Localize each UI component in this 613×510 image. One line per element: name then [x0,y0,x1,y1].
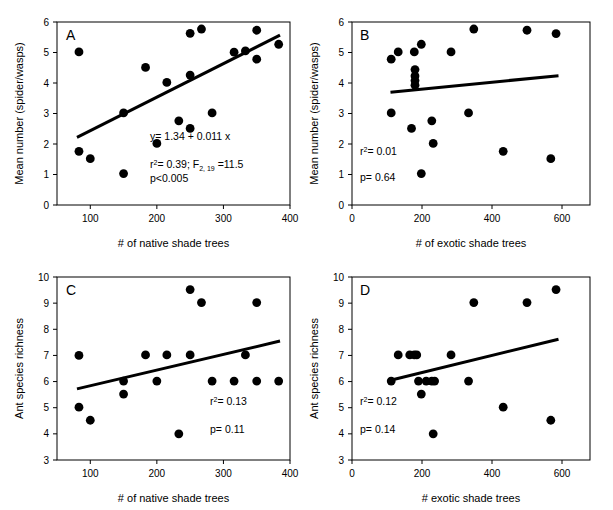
data-point [274,40,283,49]
data-point [197,25,206,34]
data-point [119,169,128,178]
data-point [75,403,84,412]
x-axis-tick-label: 200 [149,468,166,479]
data-point [469,25,478,34]
y-axis-title: Ant species richness [13,318,25,419]
x-axis-tick-label: 600 [554,468,571,479]
panel-letter: B [360,27,369,43]
panel-d-plot-area: 3456789100200400600D# exotic shade trees… [308,272,590,505]
data-point [417,390,426,399]
y-axis-tick-label: 4 [43,428,49,439]
x-axis-tick-label: 200 [414,468,431,479]
data-point [241,351,250,360]
data-point [394,47,403,56]
data-point [186,285,195,294]
data-point [75,351,84,360]
data-point [86,416,95,425]
x-axis-tick-label: 400 [484,213,501,224]
data-point [252,298,261,307]
stat-annotation: p= 0.64 [360,171,395,183]
data-point [86,154,95,163]
x-axis-tick-label: 400 [282,213,299,224]
data-point [430,377,439,386]
data-point [208,377,217,386]
panel-c-plot-area: 345678910100200300400C# of native shade … [13,272,299,505]
x-axis-tick-label: 300 [215,213,232,224]
y-axis-tick-label: 7 [338,350,344,361]
y-axis-tick-label: 3 [43,108,49,119]
data-point [552,285,561,294]
regression-line [77,341,280,389]
data-point [414,377,423,386]
data-point [141,63,150,72]
x-axis-tick-label: 600 [554,213,571,224]
data-point [469,298,478,307]
data-point [152,377,161,386]
y-axis-tick-label: 5 [43,47,49,58]
y-axis-tick-label: 3 [338,455,344,466]
y-axis-title: Mean number (spider/wasps) [13,42,25,184]
data-point [552,29,561,38]
x-axis-tick-label: 100 [82,468,99,479]
data-point [162,351,171,360]
data-point [387,377,396,386]
panel-d: 3456789100200400600D# exotic shade trees… [307,255,613,510]
panel-a-svg: 0123456100200300400A# of native shade tr… [0,0,307,255]
data-point [429,139,438,148]
y-axis-tick-label: 3 [43,455,49,466]
panel-c-svg: 345678910100200300400C# of native shade … [0,255,307,510]
data-point [252,55,261,64]
x-axis-tick-label: 100 [82,213,99,224]
data-point [162,78,171,87]
data-point [174,116,183,125]
y-axis-tick-label: 3 [338,108,344,119]
y-axis-title: Ant species richness [308,318,320,419]
data-point [410,47,419,56]
y-axis-title: Mean number (spider/wasps) [308,42,320,184]
panel-letter: A [66,27,76,43]
data-point [141,351,150,360]
y-axis-tick-label: 1 [338,169,344,180]
y-axis-tick-label: 0 [338,200,344,211]
y-axis-tick-label: 9 [43,298,49,309]
y-axis-tick-label: 0 [43,200,49,211]
y-axis-tick-label: 4 [43,78,49,89]
data-point [252,26,261,35]
data-point [499,147,508,156]
x-axis-tick-label: 200 [414,213,431,224]
data-point [546,416,555,425]
y-axis-tick-label: 6 [43,17,49,28]
data-point [75,47,84,56]
x-axis-tick-label: 300 [215,468,232,479]
panel-c: 345678910100200300400C# of native shade … [0,255,307,510]
panel-d-svg: 3456789100200400600D# exotic shade trees… [307,255,613,510]
data-point [523,298,532,307]
x-axis-title: # of native shade trees [118,237,230,249]
y-axis-tick-label: 2 [43,139,49,150]
y-axis-tick-label: 10 [38,272,50,283]
x-axis-tick-label: 0 [349,213,355,224]
data-point [417,169,426,178]
data-point [523,26,532,35]
data-point [208,108,217,117]
y-axis-tick-label: 5 [338,402,344,413]
panel-letter: C [66,282,76,298]
y-axis-tick-label: 6 [43,376,49,387]
data-point [464,108,473,117]
data-point [464,377,473,386]
panel-b-svg: 01234560200400600B# of exotic shade tree… [307,0,613,255]
y-axis-tick-label: 4 [338,428,344,439]
y-axis-tick-label: 8 [338,324,344,335]
stat-annotation: p= 0.11 [210,423,245,435]
x-axis-tick-label: 200 [149,213,166,224]
stat-annotation: r2= 0.01 [360,145,397,157]
x-axis-tick-label: 400 [484,468,501,479]
x-axis-tick-label: 400 [282,468,299,479]
stat-annotation: p<0.005 [150,172,188,184]
data-point [427,116,436,125]
regression-line [391,339,559,380]
data-point [230,48,239,57]
y-axis-tick-label: 8 [43,324,49,335]
data-point [174,429,183,438]
y-axis-tick-label: 4 [338,78,344,89]
